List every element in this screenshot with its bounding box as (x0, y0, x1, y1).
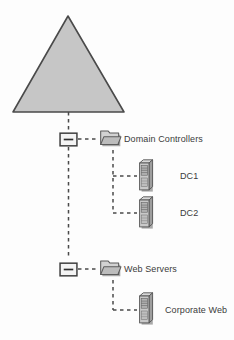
label-corporate-web: Corporate Web (165, 305, 227, 316)
server-icon-corporate-web[interactable] (140, 293, 153, 325)
diagram-graphics (0, 0, 234, 340)
server-icon-dc2[interactable] (140, 197, 153, 229)
label-dc2: DC2 (180, 208, 198, 219)
label-domain-controllers: Domain Controllers (124, 134, 203, 145)
folder-icon-web-servers[interactable] (101, 261, 121, 276)
expander-domain-controllers[interactable] (60, 133, 77, 146)
diagram-canvas: Domain Controllers DC1 DC2 Web Servers C… (0, 0, 234, 340)
server-icon-dc1[interactable] (140, 160, 153, 192)
folder-icon-domain-controllers[interactable] (101, 131, 121, 146)
expander-web-servers[interactable] (60, 263, 77, 276)
label-web-servers: Web Servers (124, 264, 177, 275)
label-dc1: DC1 (180, 171, 198, 182)
domain-triangle-icon (13, 16, 124, 112)
